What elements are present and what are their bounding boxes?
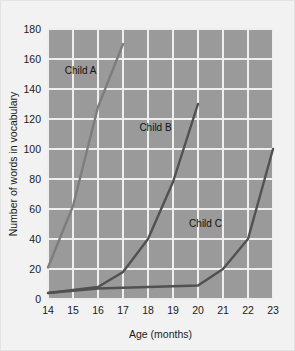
series-label: Child A xyxy=(65,65,97,76)
x-tick-label: 22 xyxy=(242,304,254,316)
x-tick-label: 14 xyxy=(42,304,54,316)
x-tick-label: 19 xyxy=(167,304,179,316)
line-chart: 020406080100120140160180 141516171819202… xyxy=(1,1,295,351)
x-tick-label: 20 xyxy=(192,304,204,316)
y-tick-label: 120 xyxy=(23,113,41,125)
y-axis-title: Number of words in vocabulary xyxy=(7,91,19,236)
y-tick-label: 20 xyxy=(29,263,41,275)
x-tick-label: 15 xyxy=(67,304,79,316)
x-axis-title: Age (months) xyxy=(129,328,192,340)
y-tick-label: 0 xyxy=(35,293,41,305)
y-axis-tick-labels: 020406080100120140160180 xyxy=(23,23,41,305)
y-tick-label: 180 xyxy=(23,23,41,35)
x-axis-tick-labels: 14151617181920212223 xyxy=(42,304,279,316)
y-tick-label: 140 xyxy=(23,83,41,95)
series-label: Child C xyxy=(189,218,222,229)
x-tick-label: 23 xyxy=(267,304,279,316)
y-tick-label: 100 xyxy=(23,143,41,155)
y-tick-label: 160 xyxy=(23,53,41,65)
y-tick-label: 80 xyxy=(29,173,41,185)
series-label: Child B xyxy=(139,122,172,133)
x-tick-label: 16 xyxy=(92,304,104,316)
y-tick-label: 60 xyxy=(29,203,41,215)
chart-figure: 020406080100120140160180 141516171819202… xyxy=(0,0,295,351)
x-tick-label: 21 xyxy=(217,304,229,316)
x-tick-label: 17 xyxy=(117,304,129,316)
x-tick-label: 18 xyxy=(142,304,154,316)
y-tick-label: 40 xyxy=(29,233,41,245)
